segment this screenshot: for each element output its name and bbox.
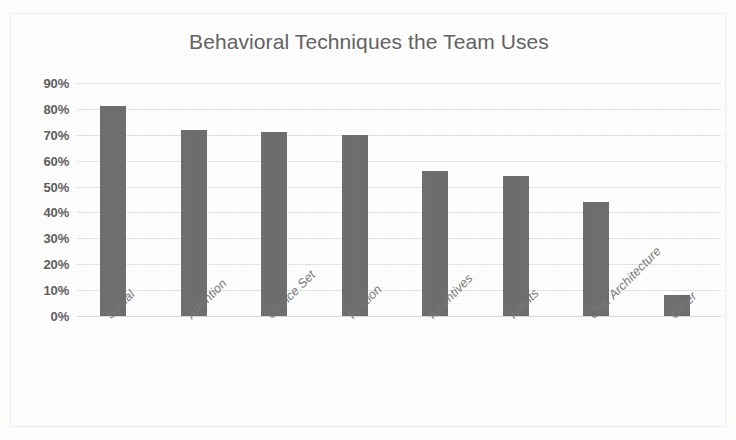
chart-title: Behavioral Techniques the Team Uses	[11, 30, 727, 54]
gridline	[77, 109, 721, 110]
chart-frame: Behavioral Techniques the Team Uses 90%8…	[10, 13, 726, 427]
gridline	[77, 238, 721, 239]
y-axis-tick-label: 70%	[11, 127, 69, 142]
y-axis-tick-label: 50%	[11, 179, 69, 194]
y-axis: 90%80%70%60%50%40%30%20%10%0%	[11, 83, 69, 316]
bar	[181, 130, 207, 316]
bar	[342, 135, 368, 316]
y-axis-tick-label: 30%	[11, 231, 69, 246]
y-axis-tick-label: 80%	[11, 101, 69, 116]
x-axis: SocialAttentionChoice SetFrictionIncenti…	[77, 316, 721, 424]
bar	[100, 106, 126, 316]
y-axis-tick-label: 10%	[11, 283, 69, 298]
y-axis-tick-label: 0%	[11, 309, 69, 324]
gridline	[77, 135, 721, 136]
y-axis-tick-label: 90%	[11, 76, 69, 91]
gridline	[77, 83, 721, 84]
gridline	[77, 264, 721, 265]
gridline	[77, 187, 721, 188]
y-axis-tick-label: 60%	[11, 153, 69, 168]
bar	[261, 132, 287, 316]
y-axis-tick-label: 20%	[11, 257, 69, 272]
gridline	[77, 161, 721, 162]
gridline	[77, 212, 721, 213]
y-axis-tick-label: 40%	[11, 205, 69, 220]
